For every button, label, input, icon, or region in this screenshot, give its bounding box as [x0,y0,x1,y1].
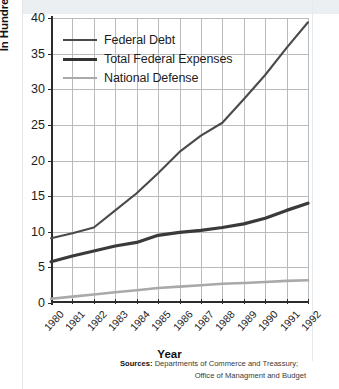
page-left-rule [22,0,23,389]
y-axis-tick-label: 40 [31,11,45,25]
y-axis-title: In Hundreds of Billions of Dollars [0,0,10,62]
legend-item: Federal Debt [63,32,232,48]
y-axis-tick-label: 20 [31,154,45,168]
series-line [51,280,308,299]
y-axis-tick-label: 10 [31,225,45,239]
x-axis-tick-label: 1990 [255,308,279,333]
sources-line-2: Office of Managment and Budget [195,371,306,380]
legend-swatch-icon [63,77,97,79]
sources-label: Sources: [120,359,153,368]
y-axis-tick-label: 15 [31,189,45,203]
y-axis-tick-label: 25 [31,118,45,132]
y-axis-tick-label: 30 [31,82,45,96]
x-axis-tick-label: 1989 [234,308,258,333]
x-axis-tick-label: 1986 [170,308,194,333]
chart-legend: Federal DebtTotal Federal ExpensesNation… [63,32,232,86]
sources-note: Sources: Departments of Commerce and Tre… [120,358,306,382]
x-axis-tick-label: 1984 [127,308,151,333]
legend-swatch-icon [63,39,97,41]
x-axis-tick-label: 1988 [213,308,237,333]
x-axis-tick [308,299,309,304]
legend-item: National Defense [63,70,232,86]
y-axis-tick-label: 0 [38,296,45,310]
legend-item-label: Federal Debt [104,33,175,47]
series-line [51,203,308,261]
legend-swatch-icon [63,58,97,61]
x-axis-tick-label: 1982 [84,308,108,333]
x-axis-tick-label: 1983 [106,308,130,333]
page-right-rule [312,0,313,361]
y-axis-tick-label: 35 [31,47,45,61]
page-top-band [22,0,339,14]
chart-page: 0510152025303540 19801981198219831984198… [0,0,339,389]
x-axis-tick-label: 1987 [191,308,215,333]
x-axis-tick-label: 1985 [148,308,172,333]
x-axis-tick-label: 1992 [298,308,322,333]
x-axis-tick-label: 1981 [63,308,87,333]
gridline-vertical [308,18,309,303]
plot-area: 0510152025303540 19801981198219831984198… [51,18,308,303]
x-axis-tick-label: 1980 [41,308,65,333]
x-axis-tick-label: 1991 [277,308,301,333]
legend-item-label: Total Federal Expenses [104,52,232,66]
y-axis-tick-label: 5 [38,260,45,274]
sources-line-1: Departments of Commerce and Treassury; [155,359,299,368]
legend-item-label: National Defense [104,71,198,85]
legend-item: Total Federal Expenses [63,51,232,67]
